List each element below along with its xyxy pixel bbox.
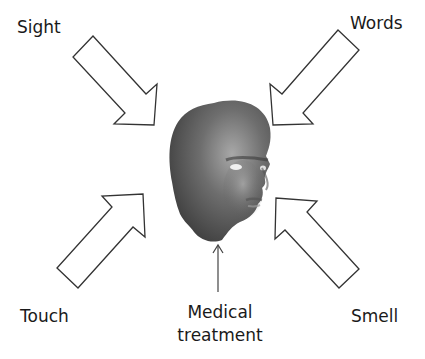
diagram-canvas: Sight Words Touch Smell Medical treatmen… bbox=[0, 0, 425, 359]
sight-arrow-icon bbox=[73, 36, 157, 125]
smell-label: Smell bbox=[351, 306, 398, 326]
touch-arrow-icon bbox=[57, 194, 145, 288]
medical-label-line1: Medical bbox=[170, 302, 270, 322]
smell-arrow-icon bbox=[275, 198, 359, 288]
medical-label-line2: treatment bbox=[162, 325, 278, 345]
words-arrow-icon bbox=[270, 30, 359, 125]
words-label: Words bbox=[350, 13, 403, 33]
medical-arrow-icon bbox=[213, 245, 223, 292]
head-icon bbox=[170, 101, 271, 242]
sight-label: Sight bbox=[17, 17, 61, 37]
touch-label: Touch bbox=[20, 306, 69, 326]
